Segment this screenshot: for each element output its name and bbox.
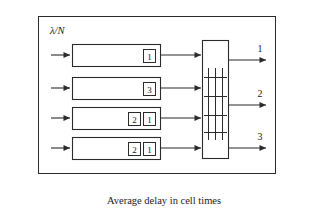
lambda-over-n-label: λ/N bbox=[49, 25, 65, 36]
output-label-1: 1 bbox=[258, 43, 263, 54]
queue-4-cell-0-label: 2 bbox=[132, 145, 137, 155]
output-label-2: 2 bbox=[258, 88, 263, 99]
output-label-3: 3 bbox=[258, 131, 263, 142]
queue-3-cell-1-label: 1 bbox=[147, 115, 152, 125]
figure-caption: Average delay in cell times bbox=[107, 195, 221, 206]
queue-4-cell-1-label: 1 bbox=[147, 145, 152, 155]
queueing-switch-diagram: λ/N 1 bbox=[0, 0, 328, 220]
crossbar-switch bbox=[203, 41, 229, 159]
queue-1-cell-0-label: 1 bbox=[147, 52, 152, 62]
slash-n-symbol: /N bbox=[54, 25, 66, 36]
queue-3-cell-0-label: 2 bbox=[132, 115, 137, 125]
figure-root: λ/N 1 bbox=[0, 0, 328, 220]
queue-2-cell-0-label: 3 bbox=[147, 85, 152, 95]
